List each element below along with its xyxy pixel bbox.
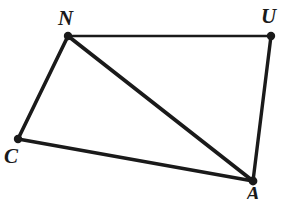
vertex-dot-c	[14, 135, 22, 143]
vertex-label-a: A	[246, 184, 260, 199]
vertex-label-n: N	[58, 8, 73, 29]
vertex-dot-u	[267, 32, 275, 40]
geometry-figure: N U C A	[0, 0, 281, 199]
vertex-label-u: U	[261, 6, 276, 27]
vertex-dot-n	[64, 32, 72, 40]
figure-canvas	[0, 0, 281, 199]
vertex-label-c: C	[4, 146, 18, 167]
